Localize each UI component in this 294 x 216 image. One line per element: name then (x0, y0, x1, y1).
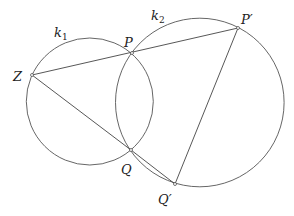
point-Q (130, 149, 133, 152)
point-P-prime (237, 27, 240, 30)
point-P (131, 52, 134, 55)
label-P: P (123, 35, 133, 50)
label-k1: k1 (54, 25, 68, 42)
point-Q-prime (174, 183, 177, 186)
label-k2: k2 (151, 8, 165, 25)
label-Q: Q (121, 162, 132, 177)
point-Z (31, 74, 34, 77)
geometry-figure: k1 k2 Z P P′ Q Q′ (0, 0, 294, 216)
label-Z: Z (12, 69, 23, 84)
segment-P-prime-Q-prime (175, 28, 238, 184)
label-Q-prime: Q′ (158, 192, 172, 207)
label-P-prime: P′ (240, 12, 253, 27)
circle-k2 (116, 18, 285, 187)
segment-Q-Q-prime (131, 150, 175, 184)
circle-k1 (26, 38, 153, 165)
